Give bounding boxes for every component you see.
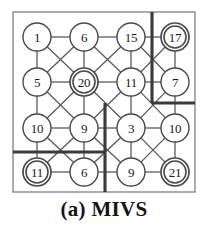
node-label: 10: [31, 121, 43, 136]
figure-caption: (a) MIVS: [0, 197, 208, 222]
graph-node-3[interactable]: 3: [117, 114, 145, 142]
node-label: 7: [172, 75, 179, 90]
node-label: 9: [81, 121, 87, 136]
node-label: 20: [78, 75, 90, 90]
node-label: 9: [128, 165, 134, 180]
node-label: 17: [169, 30, 182, 45]
graph-node-11-selected[interactable]: 11: [23, 158, 51, 186]
graph-node-6[interactable]: 6: [70, 23, 98, 51]
graph-node-20-selected[interactable]: 20: [70, 68, 98, 96]
graph-node-15[interactable]: 15: [117, 23, 145, 51]
graph-node-5[interactable]: 5: [23, 68, 51, 96]
node-label: 11: [125, 75, 137, 90]
graph-node-9[interactable]: 9: [117, 158, 145, 186]
graph-node-10[interactable]: 10: [161, 114, 189, 142]
graph-node-1[interactable]: 1: [23, 23, 51, 51]
node-label: 15: [125, 30, 137, 45]
node-label: 3: [128, 121, 134, 136]
graph-node-10[interactable]: 10: [23, 114, 51, 142]
node-label: 1: [34, 30, 40, 45]
graph-node-21-selected[interactable]: 21: [161, 158, 189, 186]
node-label: 11: [31, 165, 43, 180]
figure-mivs: 161517520117109310116921 (a) MIVS: [0, 0, 208, 239]
node-label: 6: [81, 165, 88, 180]
graph-node-6[interactable]: 6: [70, 158, 98, 186]
node-label: 10: [169, 121, 181, 136]
graph-node-7[interactable]: 7: [161, 68, 189, 96]
graph-node-9[interactable]: 9: [70, 114, 98, 142]
node-label: 6: [81, 30, 88, 45]
graph-node-17-selected[interactable]: 17: [161, 23, 189, 51]
node-label: 21: [169, 165, 181, 180]
node-label: 5: [34, 75, 40, 90]
graph-node-11[interactable]: 11: [117, 68, 145, 96]
graph-canvas: 161517520117109310116921: [0, 0, 208, 204]
